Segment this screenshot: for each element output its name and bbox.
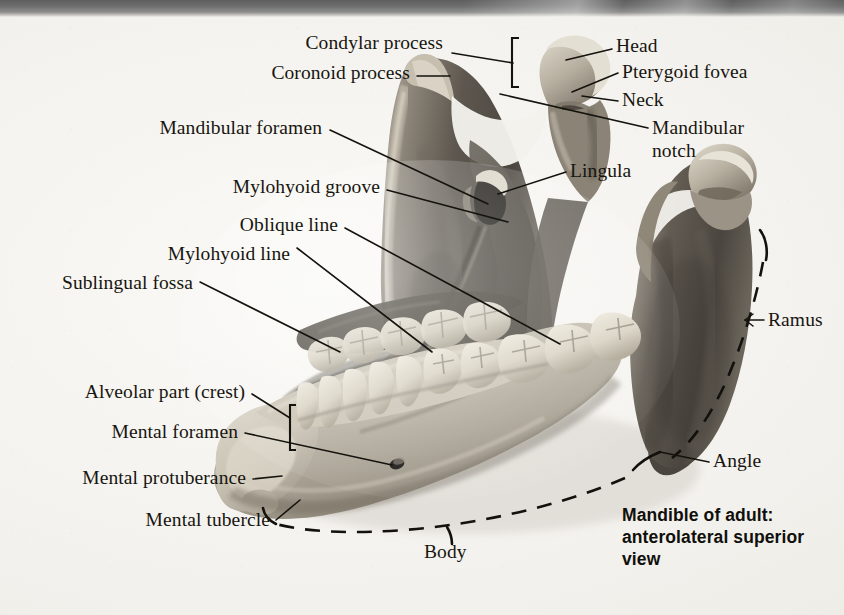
label-lingula: Lingula <box>570 160 631 182</box>
label-mental-tubercle: Mental tubercle <box>0 509 270 531</box>
label-sublingual-fossa: Sublingual fossa <box>0 272 193 294</box>
label-mental-foramen: Mental foramen <box>0 421 238 443</box>
label-coronoid-process: Coronoid process <box>130 62 410 84</box>
label-neck: Neck <box>622 89 664 111</box>
label-pterygoid-fovea: Pterygoid fovea <box>622 61 748 83</box>
label-ramus: Ramus <box>768 309 823 331</box>
label-mandibular-notch-line2: notch <box>652 140 696 162</box>
label-mylohyoid-line: Mylohyoid line <box>40 243 290 265</box>
label-mandibular-foramen: Mandibular foramen <box>30 117 322 139</box>
figure-caption-title: Mandible of adult: <box>622 505 774 527</box>
label-mandibular-notch-line1: Mandibular <box>652 117 744 139</box>
label-condylar-process: Condylar process <box>158 32 443 54</box>
label-oblique-line: Oblique line <box>100 214 338 236</box>
figure-caption-subtitle2: view <box>622 549 660 571</box>
anatomy-plate: Condylar process Coronoid process Mandib… <box>0 0 844 615</box>
figure-caption-subtitle: anterolateral superior <box>622 527 804 549</box>
label-head: Head <box>616 35 658 57</box>
label-angle: Angle <box>713 450 761 472</box>
label-mental-protuberance: Mental protuberance <box>0 467 246 489</box>
label-alveolar-part: Alveolar part (crest) <box>0 381 245 403</box>
label-body: Body <box>424 541 467 563</box>
label-mylohyoid-groove: Mylohyoid groove <box>80 176 380 198</box>
